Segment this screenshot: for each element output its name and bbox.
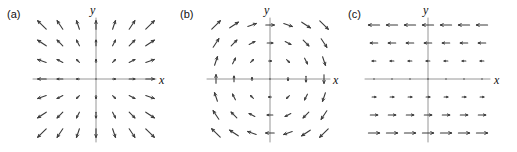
field-arrow xyxy=(406,114,413,116)
field-arrow-head xyxy=(462,61,463,62)
panel-c-tag: (c) xyxy=(348,9,361,20)
field-arrow xyxy=(409,78,411,80)
field-arrow xyxy=(390,60,394,61)
field-arrow xyxy=(442,114,449,116)
field-arrow-head xyxy=(390,61,391,62)
field-arrow-head xyxy=(444,61,445,62)
panel-c-x-axis-label: x xyxy=(494,74,499,86)
field-arrow xyxy=(426,60,430,61)
field-arrow-head xyxy=(480,61,481,62)
field-arrow xyxy=(406,42,413,44)
field-arrow-dot xyxy=(391,78,393,80)
field-arrow xyxy=(404,132,415,135)
field-arrow xyxy=(391,78,393,80)
field-arrow xyxy=(458,24,469,27)
field-arrow xyxy=(368,24,379,27)
field-arrow xyxy=(480,96,484,97)
field-arrow xyxy=(476,24,487,27)
field-arrow xyxy=(481,78,483,80)
field-arrow xyxy=(462,60,466,61)
field-arrow xyxy=(372,60,376,61)
field-arrow xyxy=(462,96,466,97)
field-arrow xyxy=(372,96,376,97)
field-arrow-dot xyxy=(463,78,465,80)
field-arrow xyxy=(386,132,397,135)
field-arrow xyxy=(463,78,465,80)
field-arrow xyxy=(478,114,485,116)
field-arrow xyxy=(440,132,451,135)
field-arrow xyxy=(427,78,429,80)
field-arrow xyxy=(476,132,487,135)
field-arrow xyxy=(370,42,377,44)
field-arrow-head xyxy=(446,96,447,97)
field-arrow xyxy=(408,60,412,61)
field-arrow-dot xyxy=(427,78,429,80)
field-arrow-dot xyxy=(445,78,447,80)
field-arrow xyxy=(388,42,395,44)
field-arrow xyxy=(460,114,467,116)
field-arrow xyxy=(460,42,467,44)
field-arrow xyxy=(440,24,451,27)
field-arrow xyxy=(386,24,397,27)
field-arrow xyxy=(444,60,448,61)
field-arrow-head xyxy=(374,96,375,97)
field-arrow-head xyxy=(482,96,483,97)
field-arrow-dot xyxy=(409,78,411,80)
field-arrow xyxy=(444,96,448,97)
field-arrow-head xyxy=(464,96,465,97)
field-arrow xyxy=(458,132,469,135)
field-arrow xyxy=(445,78,447,80)
field-arrow-head xyxy=(372,61,373,62)
field-arrow xyxy=(408,96,412,97)
field-arrow xyxy=(404,24,415,27)
field-arrow xyxy=(442,42,449,44)
field-arrow-head xyxy=(410,96,411,97)
field-arrow-dot xyxy=(373,78,375,80)
field-arrow-dot xyxy=(481,78,483,80)
field-arrow-head xyxy=(426,61,427,62)
field-arrow xyxy=(390,96,394,97)
field-arrow xyxy=(370,114,377,116)
field-arrow xyxy=(478,42,485,44)
field-arrow xyxy=(373,78,375,80)
panel-c-plot xyxy=(0,0,517,152)
field-arrow-head xyxy=(428,96,429,97)
field-arrow xyxy=(426,96,430,97)
field-arrow xyxy=(368,132,379,135)
field-arrow-head xyxy=(392,96,393,97)
panel-c-y-axis-label: y xyxy=(423,4,428,16)
field-arrow-head xyxy=(408,61,409,62)
field-arrow xyxy=(480,60,484,61)
vector-field-figure: (a) x y (b) x y (c) x y xyxy=(0,0,517,152)
field-arrow xyxy=(388,114,395,116)
